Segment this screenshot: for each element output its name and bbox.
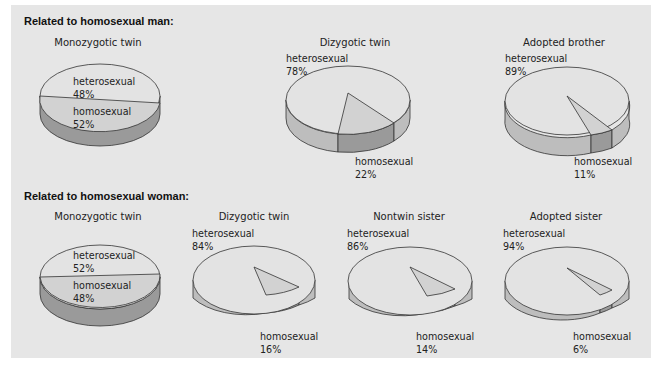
label-hetero: heterosexual84% [192,227,254,253]
chart-title: Monozygotic twin [23,211,173,222]
chart-title: Dizygotic twin [179,211,329,222]
section-title-woman: Related to homosexual woman: [24,190,189,202]
label-homo: homosexual52% [73,105,131,131]
pie-man-dizygotic [286,66,410,152]
label-hetero: heterosexual86% [347,227,409,253]
label-homo: homosexual14% [416,330,474,356]
chart-title: Dizygotic twin [280,37,430,48]
label-hetero: heterosexual52% [73,249,135,275]
label-hetero: heterosexual89% [505,52,567,78]
label-homo: homosexual16% [260,330,318,356]
pie-woman-nontwin-sister [348,247,472,316]
pie-woman-adopted-sister [505,247,629,320]
chart-title: Monozygotic twin [23,37,173,48]
label-hetero: heterosexual48% [73,75,135,101]
label-homo: homosexual48% [73,279,131,305]
label-homo: homosexual6% [573,330,631,356]
pie-man-adopted-brother [505,67,630,156]
label-hetero: heterosexual94% [503,227,565,253]
section-title-man: Related to homosexual man: [24,15,174,27]
chart-title: Nontwin sister [334,211,484,222]
pie-woman-dizygotic [193,246,315,315]
chart-title: Adopted brother [489,37,639,48]
chart-title: Adopted sister [491,211,641,222]
label-hetero: heterosexual78% [286,52,348,78]
label-homo: homosexual22% [355,155,413,181]
label-homo: homosexual11% [574,155,632,181]
